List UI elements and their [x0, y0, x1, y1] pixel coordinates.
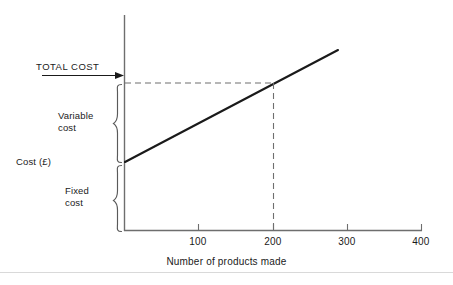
fixed-cost-brace-icon — [114, 166, 122, 232]
annotation-fixed-cost-label: Fixed cost — [65, 185, 89, 209]
variable-cost-brace-icon — [114, 85, 122, 163]
x-tick-label-100: 100 — [178, 236, 218, 247]
chart-plot-area — [0, 0, 453, 285]
fixed-cost-line-2: cost — [65, 197, 89, 209]
annotation-variable-cost-label: Variable cost — [58, 110, 93, 134]
variable-cost-line-2: cost — [58, 122, 93, 134]
x-tick-label-300: 300 — [327, 236, 367, 247]
fixed-cost-line-1: Fixed — [65, 185, 89, 197]
bottom-divider — [0, 272, 453, 273]
total-cost-arrow-icon — [42, 72, 124, 79]
annotation-total-cost-label: TOTAL COST — [36, 61, 99, 73]
variable-cost-line-1: Variable — [58, 110, 93, 122]
y-axis-label: Cost (£) — [16, 156, 51, 168]
x-tick-label-400: 400 — [401, 236, 441, 247]
total-cost-line — [125, 50, 338, 162]
x-tick-label-200: 200 — [253, 236, 293, 247]
x-axis-title: Number of products made — [0, 256, 453, 267]
cost-volume-chart-figure: TOTAL COST Variable cost Fixed cost Cost… — [0, 0, 453, 285]
